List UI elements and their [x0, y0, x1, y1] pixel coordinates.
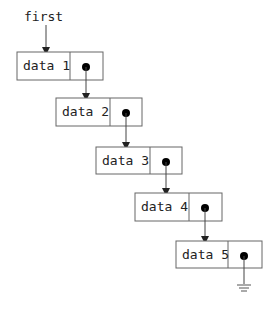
- head-label: first: [24, 9, 63, 24]
- ground-icon: [237, 285, 251, 291]
- list-node-3: data 3: [96, 147, 182, 192]
- list-node-5: data 5: [176, 241, 262, 284]
- node-data: data 2: [62, 104, 109, 119]
- list-node-1: data 1: [17, 52, 103, 97]
- list-node-4: data 4: [135, 193, 222, 240]
- node-data: data 3: [102, 153, 149, 168]
- list-node-2: data 2: [56, 98, 142, 146]
- node-data: data 1: [23, 58, 70, 73]
- node-data: data 4: [141, 199, 188, 214]
- linked-list-diagram: first data 1 data 2 data 3 data 4 data 5: [0, 0, 278, 309]
- node-data: data 5: [182, 247, 229, 262]
